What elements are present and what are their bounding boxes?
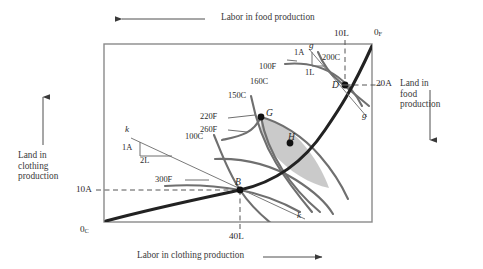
tick-label-40L: 40L [229,231,244,242]
point-label-G: G [266,107,273,118]
point-label-H: H [288,131,295,142]
slope-g-run-label: 1L [305,68,314,78]
left-axis-label-line3: production [18,171,58,182]
isoquant-label-220F: 220F [200,112,217,122]
ray-label-k-top: k [125,124,129,135]
edgeworth-box-diagram [0,0,483,269]
right-axis-label-line2: food [400,89,440,100]
slope-k-rise-label: 1A [122,143,132,153]
isoquant-label-150C: 150C [228,91,246,101]
bottom-axis-label: Labor in clothing production [137,250,244,261]
right-axis-label-line3: production [400,99,440,110]
isoquant-label-300F: 300F [155,175,172,185]
origin-clothing-sub: C [85,227,89,234]
isoquant-label-100F: 100F [259,62,276,72]
tick-label-10L: 10L [334,28,349,39]
isoquant-300F [165,185,300,212]
slope-k-run-label: 2L [140,156,149,166]
ray-label-g-top: g [309,40,314,51]
tick-label-20A: 20A [376,78,392,89]
origin-food-sub: F [379,30,383,37]
point-B [237,187,244,194]
origin-food: 0F [374,27,382,38]
left-axis-label: Land in clothing production [18,150,58,182]
box-frame [104,44,372,222]
tick-label-10A: 10A [76,184,92,195]
ray-label-k-bottom: k [297,210,301,221]
point-G [258,114,265,121]
isoquant-label-200C: 200C [322,53,340,63]
right-axis-label-line1: Land in [400,78,440,89]
left-axis-label-line2: clothing [18,161,58,172]
figure-canvas: Labor in food production Labor in clothi… [0,0,483,269]
origin-clothing: 0C [80,224,89,235]
point-label-D: D [332,79,339,90]
isoquant-label-260F: 260F [200,125,217,135]
slope-g-rise-label: 1A [294,48,304,58]
ray-label-g-bottom: g [362,110,367,121]
right-axis-label: Land in food production [400,78,440,110]
isoquant-100C [214,135,272,224]
point-label-B: B [235,176,241,187]
left-axis-label-line1: Land in [18,150,58,161]
top-axis-label: Labor in food production [221,12,315,23]
isoquant-label-160C: 160C [250,77,268,87]
